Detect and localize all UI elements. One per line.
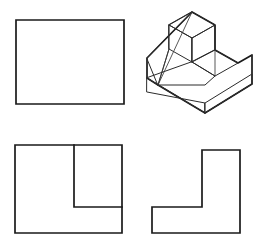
side-view: [152, 150, 240, 233]
front-view: [16, 20, 124, 104]
drawing-sheet: [0, 0, 263, 250]
side-view-outline: [152, 150, 240, 233]
technical-drawing-canvas: [0, 0, 263, 250]
front-view-outline: [16, 20, 124, 104]
top-view-outer-outline: [15, 145, 122, 233]
isometric-view: [147, 12, 252, 113]
top-view: [15, 145, 122, 233]
